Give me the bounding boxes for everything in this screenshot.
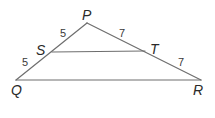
vertex-label-s: S [36, 42, 46, 58]
measure-ps: 5 [60, 27, 66, 39]
segment-st [52, 51, 145, 52]
vertex-label-r: R [193, 82, 203, 98]
measure-tr: 7 [178, 56, 184, 68]
measure-pt: 7 [119, 27, 125, 39]
vertex-label-t: T [150, 41, 160, 57]
triangle-diagram: P Q R S T 5 5 7 7 [0, 0, 215, 118]
measure-sq: 5 [22, 56, 28, 68]
vertex-label-q: Q [11, 82, 22, 98]
vertex-label-p: P [82, 7, 92, 23]
